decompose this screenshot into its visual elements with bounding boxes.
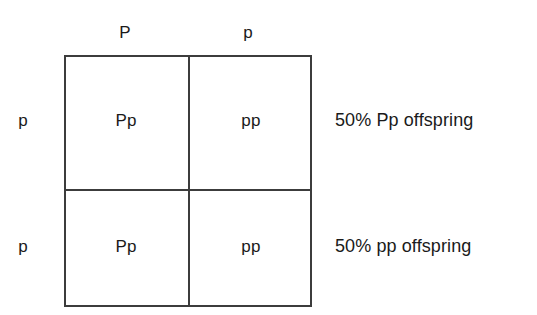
punnett-cell-row1-col1: pp [190, 238, 312, 255]
column-allele-label-0: P [95, 24, 155, 41]
punnett-square-diagram: P p p p Pp pp Pp pp 50% Pp offspring 50%… [0, 0, 537, 315]
column-allele-label-1: p [218, 24, 278, 41]
grid-divider-horizontal [64, 189, 312, 191]
row-allele-label-1: p [2, 238, 44, 255]
punnett-cell-row1-col0: Pp [64, 238, 188, 255]
offspring-annotation-1: 50% pp offspring [335, 237, 471, 255]
row-allele-label-0: p [2, 112, 44, 129]
punnett-cell-row0-col1: pp [190, 112, 312, 129]
grid-divider-vertical [188, 55, 190, 307]
offspring-annotation-0: 50% Pp offspring [335, 111, 473, 129]
punnett-cell-row0-col0: Pp [64, 112, 188, 129]
